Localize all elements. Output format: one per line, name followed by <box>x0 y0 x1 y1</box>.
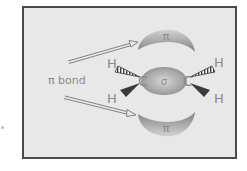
pi-label-top: π <box>163 30 170 43</box>
hashed-wedge-left-top <box>115 66 140 77</box>
solid-wedge-right-bottom <box>190 83 210 97</box>
solid-wedge-left-bottom <box>120 83 140 97</box>
hydrogen-left-top-label: H <box>107 56 117 71</box>
carbon-right-label: C <box>183 73 193 89</box>
arrow-to-top-pi <box>68 41 138 64</box>
pi-bond-label: π bond <box>48 74 86 87</box>
hydrogen-right-bottom-label: H <box>214 91 224 106</box>
hydrogen-right-top-label: H <box>214 55 224 70</box>
ethene-bond-diagram: π π σ C C H H H H π bond <box>0 0 247 171</box>
sigma-label: σ <box>161 76 168 87</box>
hydrogen-left-bottom-label: H <box>107 91 117 106</box>
arrow-to-bottom-pi <box>64 96 136 117</box>
carbon-left-label: C <box>138 73 148 89</box>
hashed-wedge-right-top <box>190 66 215 77</box>
pi-label-bottom: π <box>163 122 170 135</box>
